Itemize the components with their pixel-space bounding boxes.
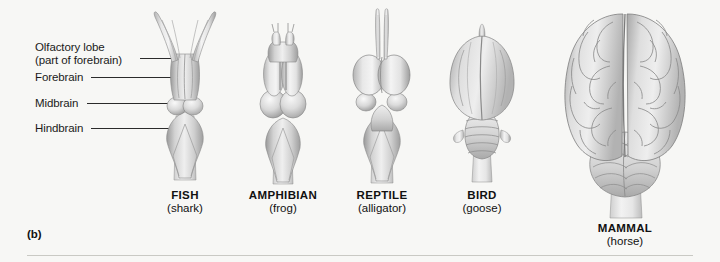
callout-forebrain-line1: Forebrain xyxy=(35,71,83,83)
specimen-label-mammal: MAMMAL (horse) xyxy=(598,222,652,248)
callout-olfactory-lobe-line2: (part of forebrain) xyxy=(35,54,122,67)
callout-hindbrain-line1: Hindbrain xyxy=(35,122,83,134)
specimen-name-fish: FISH xyxy=(167,189,203,202)
panel-letter: (b) xyxy=(27,228,42,240)
callout-forebrain: Forebrain xyxy=(35,71,83,84)
brain-comparison-figure: Olfactory lobe (part of forebrain) Foreb… xyxy=(0,0,720,262)
specimen-example-fish: (shark) xyxy=(167,202,203,215)
callout-midbrain: Midbrain xyxy=(35,97,78,110)
callout-hindbrain: Hindbrain xyxy=(35,122,83,135)
specimen-label-bird: BIRD (goose) xyxy=(463,189,502,215)
callout-midbrain-line1: Midbrain xyxy=(35,97,78,109)
specimen-name-mammal: MAMMAL xyxy=(598,222,652,235)
specimen-example-reptile: (alligator) xyxy=(356,202,407,215)
brain-illustration-reptile xyxy=(349,7,415,183)
brain-illustration-amphibian xyxy=(253,22,313,184)
specimen-name-amphibian: AMPHIBIAN xyxy=(249,189,317,202)
specimen-example-mammal: (horse) xyxy=(598,235,652,248)
specimen-name-bird: BIRD xyxy=(463,189,502,202)
specimen-label-fish: FISH (shark) xyxy=(167,189,203,215)
brain-illustration-bird xyxy=(441,22,523,182)
brain-illustration-fish xyxy=(153,8,217,180)
figure-bottom-rule xyxy=(27,255,693,256)
specimen-example-bird: (goose) xyxy=(463,202,502,215)
specimen-label-reptile: REPTILE (alligator) xyxy=(356,189,407,215)
callout-olfactory-lobe-line1: Olfactory lobe xyxy=(35,41,105,53)
brain-illustration-mammal xyxy=(550,4,700,218)
specimen-example-amphibian: (frog) xyxy=(249,202,317,215)
callout-olfactory-lobe: Olfactory lobe (part of forebrain) xyxy=(35,41,122,67)
specimen-name-reptile: REPTILE xyxy=(356,189,407,202)
specimen-label-amphibian: AMPHIBIAN (frog) xyxy=(249,189,317,215)
